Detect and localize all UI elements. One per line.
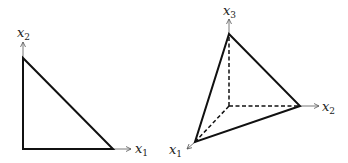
triangle-outline (23, 58, 113, 149)
x2-label: x2 (17, 25, 30, 42)
x1-label: x1 (169, 142, 182, 159)
x1-label: x1 (135, 141, 148, 158)
x3-label: x3 (223, 3, 236, 20)
triangle-2d: x2 x1 (17, 25, 148, 158)
simplex-diagram: x2 x1 x3 x2 x1 (0, 0, 348, 163)
x2-label: x2 (322, 99, 335, 116)
tetrahedron-3d: x3 x2 x1 (169, 3, 335, 159)
